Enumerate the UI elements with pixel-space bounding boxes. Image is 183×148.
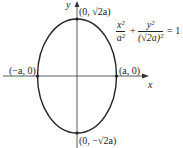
equation-term1: x² a² (116, 20, 125, 43)
vertex-right (115, 74, 118, 77)
point-label-left: (−a, 0) (9, 66, 36, 76)
vertex-top (75, 17, 78, 20)
equation-plus: + (130, 26, 136, 36)
x-axis-arrow-icon (142, 74, 149, 79)
point-label-bottom: (0, −√2a) (79, 136, 116, 146)
point-label-top: (0, √2a) (79, 7, 111, 17)
term2-denominator: (√2a)² (138, 32, 163, 43)
point-label-right: (a, 0) (119, 66, 140, 76)
x-axis-label: x (148, 80, 152, 90)
equation-rhs: = 1 (167, 26, 180, 36)
term2-numerator: y² (138, 20, 163, 32)
term1-numerator: x² (116, 20, 125, 32)
vertex-left (36, 74, 39, 77)
y-axis-label: y (66, 0, 70, 10)
equation-term2: y² (√2a)² (138, 20, 163, 43)
term1-denominator: a² (116, 32, 125, 43)
